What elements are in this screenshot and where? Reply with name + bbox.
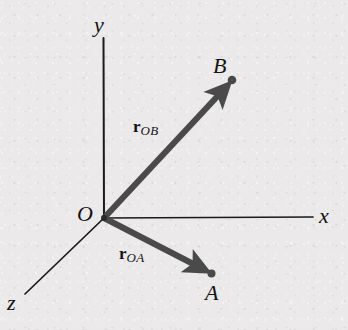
point-B-dot xyxy=(228,76,237,85)
origin-dot xyxy=(101,215,107,221)
x-axis-line xyxy=(104,217,313,218)
coordinate-axes-and-vectors-canvas xyxy=(0,0,348,330)
vector-OA-symbol: r xyxy=(119,244,127,263)
x-axis-label: x xyxy=(319,205,329,227)
vector-OB-shaft xyxy=(104,86,227,218)
vector-OA-label: rOA xyxy=(119,245,144,262)
origin-label: O xyxy=(77,203,93,225)
vector-OA-subscript: OA xyxy=(127,250,145,265)
point-A-label: A xyxy=(205,282,218,304)
axis-group xyxy=(25,38,313,294)
vector-diagram-figure: y x z O A B rOB rOA xyxy=(0,0,348,330)
point-A-dot xyxy=(208,270,216,278)
vector-OB-label: rOB xyxy=(133,118,158,135)
y-axis-line xyxy=(104,38,105,218)
vector-OB-symbol: r xyxy=(133,117,141,136)
point-B-label: B xyxy=(213,55,226,77)
y-axis-label: y xyxy=(94,14,104,36)
z-axis-label: z xyxy=(7,292,16,314)
vector-OB-subscript: OB xyxy=(141,123,159,138)
z-axis-line xyxy=(25,218,104,294)
vector-group xyxy=(104,86,227,270)
